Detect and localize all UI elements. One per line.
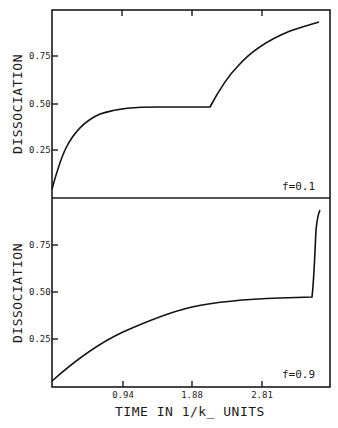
bottom-y-tick-labels: 0.75 0.50 0.25 <box>29 240 51 344</box>
top-x-ticks <box>122 10 262 16</box>
top-y-ticks <box>52 56 58 150</box>
curve-f-0.9 <box>52 210 320 381</box>
ytick-label-050: 0.50 <box>29 99 51 109</box>
ytick-label-025: 0.25 <box>29 145 51 155</box>
bottom-y-ticks <box>52 245 58 339</box>
xtick-label-188: 1.88 <box>181 390 203 400</box>
x-axis-title: TIME IN 1/k_ UNITS <box>115 404 265 419</box>
y-axis-title-bottom: DISSOCIATION <box>10 243 25 343</box>
ytick-label-025-bottom: 0.25 <box>29 334 51 344</box>
bottom-x-tick-labels: 0.94 1.88 2.81 <box>112 390 273 400</box>
ytick-label-075-bottom: 0.75 <box>29 240 51 250</box>
annotation-top: f=0.1 <box>282 180 315 193</box>
xtick-label-281: 2.81 <box>251 390 273 400</box>
annotation-bottom: f=0.9 <box>282 368 315 381</box>
y-axis-title-top: DISSOCIATION <box>10 54 25 154</box>
bottom-x-ticks <box>123 381 262 387</box>
ytick-label-050-bottom: 0.50 <box>29 287 51 297</box>
top-y-tick-labels: 0.75 0.50 0.25 <box>29 51 51 155</box>
xtick-label-094: 0.94 <box>112 390 134 400</box>
curve-f-0.1 <box>52 22 319 189</box>
dissociation-chart: 0.75 0.50 0.25 DISSOCIATION f=0.1 0.94 1… <box>0 0 338 428</box>
ytick-label-075: 0.75 <box>29 51 51 61</box>
